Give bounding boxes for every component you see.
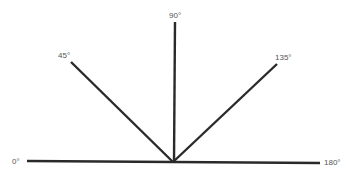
- ray-90: [174, 22, 175, 162]
- label-180: 180°: [324, 159, 341, 167]
- label-90: 90°: [169, 12, 181, 20]
- label-45: 45°: [58, 52, 70, 60]
- ray-135: [173, 64, 277, 162]
- ray-45: [71, 62, 173, 162]
- label-135: 135°: [275, 54, 292, 62]
- label-0: 0°: [12, 158, 20, 166]
- angle-diagram: [0, 0, 355, 176]
